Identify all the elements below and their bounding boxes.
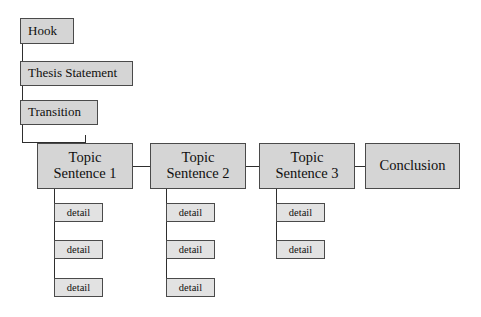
node-topic-sentence-3: Topic Sentence 3: [259, 143, 355, 189]
node-conclusion: Conclusion: [365, 143, 460, 189]
node-transition: Transition: [20, 100, 98, 125]
detail-box-col3-1: detail: [276, 203, 325, 222]
detail-box-col1-3: detail: [54, 278, 103, 297]
connector-topic1-to-topic2: [133, 166, 150, 167]
detail-box-col1-1: detail: [54, 203, 103, 222]
detail-box-col3-2: detail: [276, 240, 325, 259]
node-hook: Hook: [20, 18, 74, 44]
detail-box-col2-2: detail: [166, 240, 215, 259]
connector-topic3-to-conclusion: [355, 166, 365, 167]
node-topic-sentence-1: Topic Sentence 1: [37, 143, 133, 189]
connector-topic2-to-topic3: [246, 166, 259, 167]
connector-hook-to-thesis: [22, 44, 23, 62]
essay-outline-diagram: HookThesis StatementTransitionTopic Sent…: [0, 0, 481, 317]
node-thesis-statement: Thesis Statement: [20, 61, 133, 86]
connector-transition-to-topic1: [85, 135, 86, 143]
node-topic-sentence-2: Topic Sentence 2: [150, 143, 246, 189]
detail-box-col2-1: detail: [166, 203, 215, 222]
detail-box-col2-3: detail: [166, 278, 215, 297]
connector-transition-down: [22, 125, 23, 143]
connector-thesis-to-transition: [22, 86, 23, 101]
detail-box-col1-2: detail: [54, 240, 103, 259]
